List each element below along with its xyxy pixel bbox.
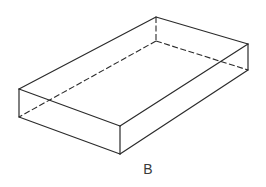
box-diagram xyxy=(0,0,266,187)
edge-top-back-left xyxy=(19,17,156,89)
edge-top-back-right xyxy=(156,17,248,44)
edge-bottom-front-right xyxy=(120,70,248,154)
edge-top-front-right xyxy=(120,44,248,126)
edge-bottom-front-left xyxy=(19,117,120,154)
figure-label: B xyxy=(140,161,156,177)
hidden-edge-bottom-back-right xyxy=(156,41,248,70)
edge-top-front-left xyxy=(19,89,120,126)
